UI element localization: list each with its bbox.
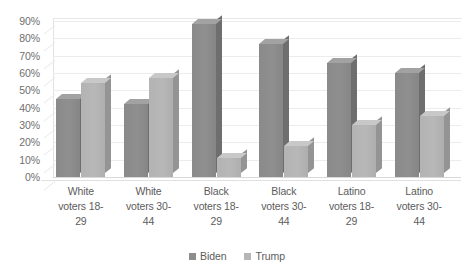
bar-front-face xyxy=(124,104,148,177)
x-axis-label: Whitevoters 18-29 xyxy=(42,184,119,229)
plot-area xyxy=(41,18,461,180)
bar-groups xyxy=(41,18,461,180)
x-axis-label-line: Black xyxy=(178,184,255,199)
bar-front-face xyxy=(284,146,308,177)
bar-front-face xyxy=(420,116,444,177)
y-axis-tick-label: 80% xyxy=(2,33,40,43)
x-axis-label-line: Latino xyxy=(313,184,390,199)
bar-group xyxy=(124,18,173,177)
x-axis-label-line: 29 xyxy=(313,214,390,229)
x-axis-label-line: Latino xyxy=(381,184,458,199)
bar-group xyxy=(56,18,105,177)
x-axis-label-line: voters 30- xyxy=(381,199,458,214)
x-axis-label: Blackvoters 30-44 xyxy=(245,184,322,229)
chart-floor-edge xyxy=(41,180,461,181)
x-axis-label-line: voters 18- xyxy=(178,199,255,214)
bar-side-face xyxy=(173,70,179,173)
bar-trump-5[interactable] xyxy=(352,125,376,177)
bar-front-face xyxy=(192,24,216,177)
bar-trump-3[interactable] xyxy=(217,158,241,177)
y-axis-tick-label: 90% xyxy=(2,16,40,26)
bar-biden-4[interactable] xyxy=(259,44,283,177)
x-axis-label: Latinovoters 18-29 xyxy=(313,184,390,229)
x-axis-label-line: 29 xyxy=(42,214,119,229)
legend-label: Biden xyxy=(200,250,226,262)
bar-side-face xyxy=(444,108,450,173)
x-axis-label-line: 29 xyxy=(178,214,255,229)
legend-item-biden[interactable]: Biden xyxy=(189,250,226,262)
x-axis-label-line: White xyxy=(110,184,187,199)
x-axis-label-line: 44 xyxy=(245,214,322,229)
bar-group xyxy=(395,18,444,177)
bar-biden-6[interactable] xyxy=(395,73,419,177)
bar-front-face xyxy=(395,73,419,177)
bar-trump-4[interactable] xyxy=(284,146,308,177)
x-axis-label-line: voters 18- xyxy=(313,199,390,214)
legend-item-trump[interactable]: Trump xyxy=(244,250,284,262)
y-axis-tick-label: 30% xyxy=(2,120,40,130)
bar-biden-1[interactable] xyxy=(56,99,80,177)
x-axis-label-line: 44 xyxy=(110,214,187,229)
bar-front-face xyxy=(81,83,105,177)
y-axis-tick-label: 0% xyxy=(2,172,40,182)
bar-front-face xyxy=(259,44,283,177)
y-axis: 90%80%70%60%50%40%30%20%10%0% xyxy=(0,0,40,277)
x-axis-label-line: White xyxy=(42,184,119,199)
y-axis-tick-label: 20% xyxy=(2,137,40,147)
bar-biden-5[interactable] xyxy=(327,63,351,177)
x-axis-label-line: voters 18- xyxy=(42,199,119,214)
y-axis-tick-label: 40% xyxy=(2,103,40,113)
x-axis-label-line: 44 xyxy=(381,214,458,229)
bar-biden-2[interactable] xyxy=(124,104,148,177)
bar-front-face xyxy=(56,99,80,177)
chart-legend: BidenTrump xyxy=(0,250,474,262)
y-axis-tick-label: 70% xyxy=(2,51,40,61)
bar-group xyxy=(327,18,376,177)
bar-biden-3[interactable] xyxy=(192,24,216,177)
bar-front-face xyxy=(352,125,376,177)
legend-swatch-icon xyxy=(244,253,251,260)
x-axis-label: Whitevoters 30-44 xyxy=(110,184,187,229)
x-axis-label-line: voters 30- xyxy=(245,199,322,214)
legend-label: Trump xyxy=(255,250,284,262)
x-axis-label: Blackvoters 18-29 xyxy=(178,184,255,229)
x-axis-label-line: voters 30- xyxy=(110,199,187,214)
bar-group xyxy=(259,18,308,177)
y-axis-tick-label: 60% xyxy=(2,68,40,78)
bar-front-face xyxy=(149,78,173,177)
x-axis-label-line: Black xyxy=(245,184,322,199)
y-axis-tick-label: 50% xyxy=(2,85,40,95)
y-axis-tick-label: 10% xyxy=(2,155,40,165)
bar-side-face xyxy=(105,75,111,173)
bar-front-face xyxy=(327,63,351,177)
bar-chart: 90%80%70%60%50%40%30%20%10%0% Whitevoter… xyxy=(0,0,474,277)
bar-group xyxy=(192,18,241,177)
bar-trump-2[interactable] xyxy=(149,78,173,177)
bar-trump-1[interactable] xyxy=(81,83,105,177)
x-axis-category-labels: Whitevoters 18-29Whitevoters 30-44Blackv… xyxy=(41,184,461,236)
bar-side-face xyxy=(376,116,382,173)
bar-side-face xyxy=(216,16,222,173)
bar-trump-6[interactable] xyxy=(420,116,444,177)
x-axis-label: Latinovoters 30-44 xyxy=(381,184,458,229)
bar-front-face xyxy=(217,158,241,177)
legend-swatch-icon xyxy=(189,253,196,260)
